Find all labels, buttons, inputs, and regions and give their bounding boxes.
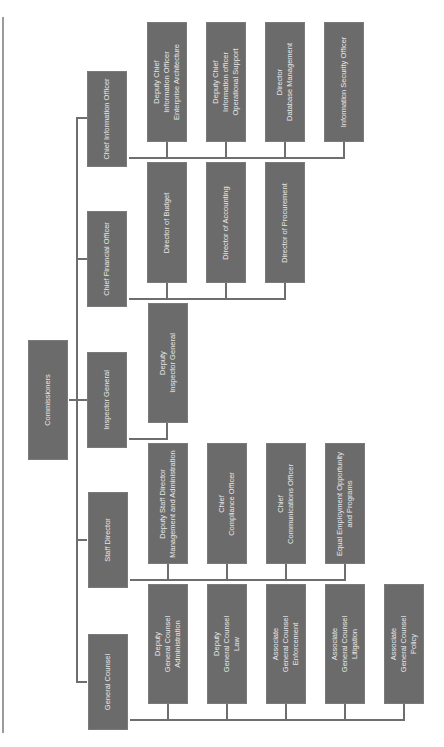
inspector-general-box: Inspector General [87,352,127,448]
inspector-general-label: Inspector General [102,370,112,430]
deputy-gc-law-box: DeputyGeneral CounselLaw [207,584,247,704]
sd-stub [76,539,87,541]
associate-gc-enforcement-box: AssociateGeneral CounselEnforcement [266,584,306,704]
deputy-cio-operational-support-box: Deputy ChiefInformation officerOperation… [206,22,246,142]
page-border-line [2,17,4,733]
associate-gc-litigation-box: AssociateGeneral CounselLitigation [325,584,365,704]
chief-communications-officer-box: ChiefCommunications Officer [266,443,306,564]
cio-drop [284,142,286,158]
staff-director-box: Staff Director [88,492,128,588]
ig-bus [129,438,168,440]
chief-information-officer-box: Chief Information Officer [87,71,127,167]
sd-drop [226,564,228,580]
box-label: AssociateGeneral CounselEnforcement [271,616,301,672]
cio-drop [225,142,227,158]
commissioners-label: Commissioners [43,374,53,426]
general-counsel-box: General Counsel [88,634,128,730]
box-label: DeputyGeneral CounselLaw [212,616,242,672]
cio-bus [129,157,345,159]
sd-bus [130,579,346,581]
box-label: AssociateGeneral CounselLitigation [330,616,360,672]
deputy-staff-director-box: Deputy Staff DirectorManagement and Admi… [148,443,188,564]
cio-stub [76,117,87,119]
box-label: Director of Accounting [221,186,231,259]
box-label: AssociateGeneral CounselPolicy [389,616,419,672]
information-security-officer-box: Information Security Officer [324,22,364,142]
box-label: ChiefCommunications Officer [276,464,296,544]
equal-employment-opportunity-box: Equal Employment Opportunityand Programs [325,443,365,564]
cfo-drop [166,283,168,299]
staff-director-label: Staff Director [103,518,113,562]
director-database-management-box: DirectorDatabase Management [265,22,305,142]
box-label: DeputyGeneral CounselAdministration [153,616,183,672]
box-label: DirectorDatabase Management [275,43,295,121]
sd-drop [285,564,287,580]
cio-drop [343,142,345,158]
chief-compliance-officer-box: ChiefCompliance Officer [207,443,247,564]
sd-drop [344,564,346,580]
chief-financial-officer-box: Chief Financial Officer [87,211,127,307]
box-label: DeputyInspector General [158,333,178,393]
cfo-bus [129,298,286,300]
commissioners-box: Commissioners [28,340,68,460]
deputy-inspector-general-box: DeputyInspector General [148,303,188,423]
box-label: Information Security Officer [339,37,349,128]
box-label: Deputy ChiefInformation officerOperation… [211,48,241,115]
deputy-gc-administration-box: DeputyGeneral CounselAdministration [148,584,188,704]
gc-stub [76,681,87,683]
general-counsel-label: General Counsel [103,654,113,710]
director-of-accounting-box: Director of Accounting [206,162,246,283]
gc-drop [344,704,346,720]
box-label: Deputy ChiefInformation OfficerEnterpris… [152,44,182,120]
chief-information-officer-label: Chief Information Officer [102,78,112,159]
cio-drop [166,142,168,158]
ig-stub [76,399,87,401]
sd-drop [167,564,169,580]
box-label: Director of Budget [162,192,172,252]
associate-gc-policy-box: AssociateGeneral CounselPolicy [384,584,424,704]
gc-drop [226,704,228,720]
deputy-cio-enterprise-architecture-box: Deputy ChiefInformation OfficerEnterpris… [147,22,187,142]
cfo-stub [76,258,87,260]
cfo-drop [284,283,286,299]
director-of-budget-box: Director of Budget [147,162,187,283]
gc-bus [130,719,405,721]
box-label: Deputy Staff DirectorManagement and Admi… [158,450,178,558]
cfo-drop [225,283,227,299]
gc-drop [167,704,169,720]
ig-drop [166,423,168,439]
gc-drop [285,704,287,720]
box-label: ChiefCompliance Officer [217,472,237,536]
box-label: Director of Procurement [280,183,290,263]
box-label: Equal Employment Opportunityand Programs [335,452,355,556]
gc-drop [403,704,405,720]
chief-financial-officer-label: Chief Financial Officer [102,222,112,296]
director-of-procurement-box: Director of Procurement [265,162,305,283]
